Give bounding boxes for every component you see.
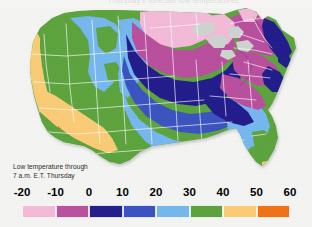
temperature-legend[interactable]: -20-100102030405060 bbox=[0, 186, 312, 227]
legend-tick--10: -10 bbox=[47, 186, 64, 198]
legend-tick-labels: -20-100102030405060 bbox=[0, 186, 312, 202]
legend-tick-50: 50 bbox=[250, 186, 263, 198]
legend-tick-10: 10 bbox=[116, 186, 129, 198]
map-color-bands bbox=[0, 4, 312, 179]
legend-tick-0: 0 bbox=[86, 186, 92, 198]
legend-color-bar[interactable] bbox=[22, 205, 290, 218]
legend-swatch-1[interactable] bbox=[56, 205, 90, 218]
legend-tick-60: 60 bbox=[284, 186, 297, 198]
map-svg bbox=[0, 4, 312, 179]
legend-swatch-2[interactable] bbox=[89, 205, 123, 218]
legend-tick-30: 30 bbox=[183, 186, 196, 198]
legend-tick-20: 20 bbox=[150, 186, 163, 198]
temperature-map[interactable]: Low temperature through 7 a.m. E.T. Thur… bbox=[0, 4, 312, 179]
legend-swatch-3[interactable] bbox=[123, 205, 157, 218]
legend-swatch-4[interactable] bbox=[156, 205, 190, 218]
legend-tick-40: 40 bbox=[217, 186, 230, 198]
legend-tick--20: -20 bbox=[14, 186, 31, 198]
legend-swatch-5[interactable] bbox=[190, 205, 224, 218]
legend-swatch-0[interactable] bbox=[22, 205, 56, 218]
legend-swatch-6[interactable] bbox=[223, 205, 257, 218]
legend-swatch-7[interactable] bbox=[257, 205, 291, 218]
weather-map-screenshot: Thursday's forecast low temperatures bbox=[0, 0, 312, 227]
map-caption: Low temperature through 7 a.m. E.T. Thur… bbox=[13, 163, 88, 180]
